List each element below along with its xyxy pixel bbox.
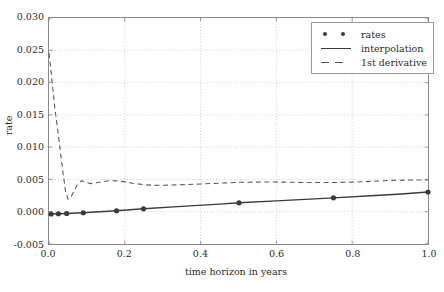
legend-label-interpolation: interpolation: [355, 43, 423, 54]
data-series: [49, 53, 431, 216]
legend-line-sample-derivative: [317, 56, 355, 68]
x-axis-label-text: time horizon in years: [185, 266, 287, 277]
y-tick-label: 0.025: [17, 45, 44, 55]
x-tick-label: 0.6: [269, 249, 284, 259]
legend-solid-line-icon: [321, 48, 351, 49]
legend-dot-icon: [323, 32, 327, 36]
legend-label-derivative: 1st derivative: [355, 57, 427, 68]
y-tick-label: 0.020: [17, 77, 44, 87]
x-tick-label: 1.0: [421, 249, 436, 259]
x-tick-label: 0.0: [40, 249, 55, 259]
y-tick-label: 0.010: [17, 142, 44, 152]
series-line-1st-derivative: [49, 53, 428, 199]
x-axis-label: time horizon in years: [0, 266, 444, 277]
y-tick-label: 0.015: [17, 110, 44, 120]
y-tick-label: 0.000: [17, 207, 44, 217]
legend-dashed-line-icon: [335, 62, 343, 63]
x-tick-label: 0.4: [193, 249, 208, 259]
x-tick-label: 0.2: [117, 249, 132, 259]
series-line-interpolation: [49, 192, 428, 214]
legend-line-sample-interpolation: [317, 42, 355, 54]
legend-item-rates: rates: [317, 27, 427, 41]
legend-dot-icon: [341, 32, 345, 36]
y-tick-label: 0.030: [17, 12, 44, 22]
legend-item-interpolation: interpolation: [317, 41, 427, 55]
y-axis-label: rate: [3, 96, 14, 156]
x-tick-label: 0.8: [345, 249, 360, 259]
legend-item-derivative: 1st derivative: [317, 55, 427, 69]
y-tick-label: 0.005: [17, 175, 44, 185]
legend-marker-sample-rates: [317, 28, 355, 40]
legend-label-rates: rates: [355, 29, 386, 40]
chart-figure: -0.0050.0000.0050.0100.0150.0200.0250.03…: [0, 0, 444, 292]
x-axis-tick-labels: 0.00.20.40.60.81.0: [0, 249, 444, 263]
legend-dashed-line-icon: [321, 62, 329, 63]
chart-legend: rates interpolation 1st derivative: [311, 22, 434, 74]
